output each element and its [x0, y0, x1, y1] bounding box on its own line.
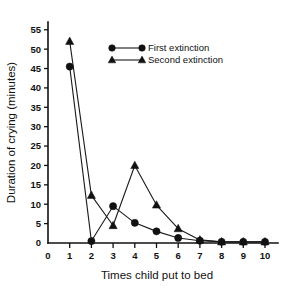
- x-tick-label: 4: [132, 250, 138, 261]
- series-line: [70, 41, 265, 241]
- y-tick-label: 45: [30, 63, 41, 74]
- legend-label: Second extinction: [148, 54, 223, 65]
- data-point-triangle: [138, 56, 146, 63]
- y-tick-label: 5: [36, 218, 42, 229]
- y-axis-title: Duration of crying (minutes): [5, 62, 17, 203]
- y-tick-label: 55: [30, 24, 41, 35]
- series-layer: [66, 37, 269, 245]
- x-tick-label: 3: [110, 250, 115, 261]
- data-point-triangle: [66, 37, 74, 44]
- x-tick-label: 9: [241, 250, 246, 261]
- y-tick-label: 20: [30, 160, 41, 171]
- series-line: [70, 67, 265, 242]
- legend-label: First extinction: [148, 42, 209, 53]
- series-2: [66, 37, 269, 245]
- data-point-circle: [131, 219, 138, 226]
- y-tick-label: 10: [30, 199, 41, 210]
- legend-entry-1: First extinction: [109, 42, 210, 53]
- data-point-triangle: [152, 201, 160, 208]
- data-point-circle: [153, 228, 160, 235]
- y-tick-label: 15: [30, 179, 41, 190]
- series-1: [66, 63, 268, 245]
- y-tick-label: 35: [30, 102, 41, 113]
- y-tick-label: 50: [30, 44, 41, 55]
- x-tick-label: 5: [154, 250, 160, 261]
- x-tick-label: 10: [260, 250, 271, 261]
- y-tick-label: 25: [30, 140, 41, 151]
- data-point-circle: [109, 45, 116, 52]
- y-tick-label: 30: [30, 121, 41, 132]
- line-chart: 0510152025303540455055 012345678910 Time…: [0, 0, 292, 289]
- chart-legend: First extinctionSecond extinction: [108, 42, 223, 65]
- x-tick-label: 8: [219, 250, 224, 261]
- chart-figure: 0510152025303540455055 012345678910 Time…: [0, 0, 292, 289]
- x-tick-label: 1: [67, 250, 73, 261]
- x-axis-tick-labels: 012345678910: [45, 250, 270, 261]
- legend-entry-2: Second extinction: [108, 54, 223, 65]
- x-axis-title: Times child put to bed: [101, 269, 213, 281]
- y-tick-label: 40: [30, 82, 41, 93]
- data-point-circle: [175, 234, 182, 241]
- data-point-circle: [66, 63, 73, 70]
- data-point-triangle: [108, 56, 116, 63]
- data-point-circle: [139, 45, 146, 52]
- data-point-triangle: [87, 191, 95, 198]
- data-point-circle: [88, 237, 95, 244]
- y-axis-tick-labels: 0510152025303540455055: [30, 24, 41, 248]
- x-tick-label: 7: [197, 250, 202, 261]
- data-point-triangle: [131, 161, 139, 168]
- x-tick-label: 0: [45, 250, 50, 261]
- x-tick-label: 2: [89, 250, 94, 261]
- data-point-circle: [109, 203, 116, 210]
- y-tick-label: 0: [36, 237, 41, 248]
- x-tick-label: 6: [176, 250, 181, 261]
